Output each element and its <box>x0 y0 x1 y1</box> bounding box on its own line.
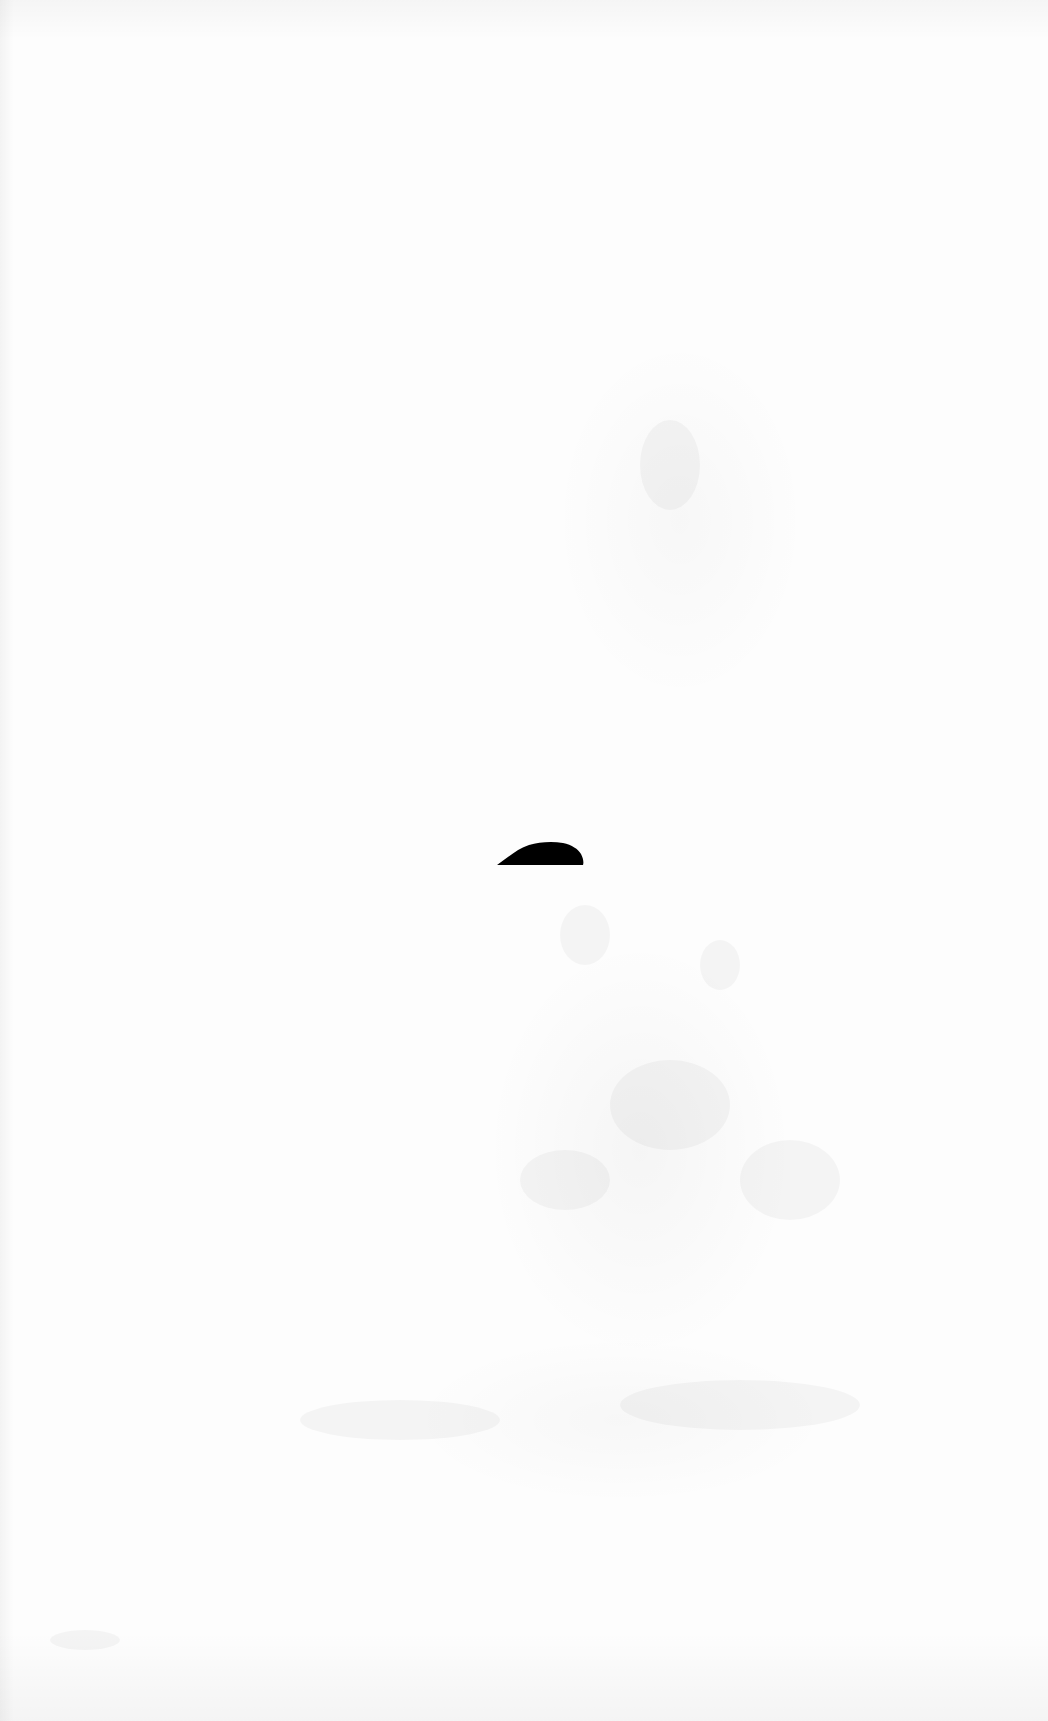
paper-speckle <box>610 1060 730 1150</box>
paper-speckle <box>620 1380 860 1430</box>
paper-speckle <box>700 940 740 990</box>
paper-speckle <box>560 905 610 965</box>
paper-speckle <box>50 1630 120 1650</box>
paper-speckle <box>740 1140 840 1220</box>
paper-speckle <box>520 1150 610 1210</box>
scanned-page <box>0 0 1048 1721</box>
paper-speckle <box>300 1400 500 1440</box>
paper-speckle <box>640 420 700 510</box>
ink-blot-icon <box>497 841 584 866</box>
